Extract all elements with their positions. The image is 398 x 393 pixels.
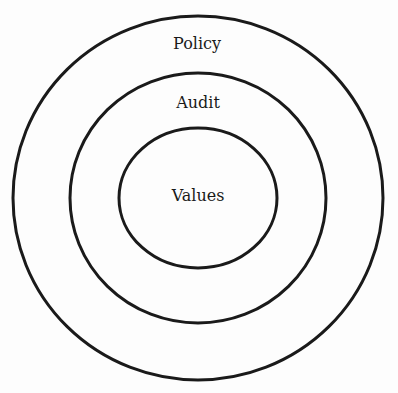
audit-label: Audit <box>176 93 220 112</box>
values-label: Values <box>172 186 225 205</box>
policy-label: Policy <box>173 34 221 53</box>
